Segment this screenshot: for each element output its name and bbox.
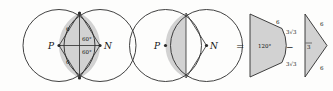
chord-and-spokes-2 bbox=[186, 13, 207, 78]
label-radius-top: 6 bbox=[66, 26, 70, 32]
vertex-n-dot bbox=[98, 44, 101, 47]
rhombus-spokes bbox=[59, 13, 100, 78]
triangle-side-top-label: 6 bbox=[320, 21, 324, 27]
label-angle-top: 60° bbox=[82, 36, 92, 42]
vertex-bottom-dot bbox=[78, 76, 81, 79]
minus-operator: − bbox=[286, 42, 294, 52]
sector-radius-label: 6 bbox=[276, 19, 280, 25]
label-n: N bbox=[103, 41, 113, 51]
label-p-2: P bbox=[153, 41, 161, 51]
triangle-height-label: 3 bbox=[307, 44, 311, 50]
geometry-figure: P N 6 6 60° 60° P N = 120° 6 − 3√3 3√3 6 bbox=[0, 0, 333, 91]
vertex-top-dot bbox=[78, 11, 81, 14]
sector-figure: 120° 6 bbox=[250, 14, 286, 77]
diagram-2: P N bbox=[130, 10, 243, 82]
label-radius-bottom: 6 bbox=[66, 59, 70, 65]
vertex-n-dot-2 bbox=[205, 44, 208, 47]
label-angle-bottom: 60° bbox=[82, 49, 92, 55]
equals-operator: = bbox=[236, 41, 244, 52]
vertex-p-dot bbox=[57, 44, 60, 47]
label-p: P bbox=[47, 41, 55, 51]
vertex-p-dot-2 bbox=[164, 44, 167, 47]
triangle-side-bottom-label: 6 bbox=[320, 65, 324, 71]
figure-container: P N 6 6 60° 60° P N = 120° 6 − 3√3 3√3 6 bbox=[0, 0, 333, 91]
diagram-1: P N 6 6 60° 60° bbox=[23, 10, 136, 82]
label-n-2: N bbox=[209, 41, 219, 51]
triangle-base-bottom-label: 3√3 bbox=[286, 61, 297, 67]
sector-angle-label: 120° bbox=[258, 43, 271, 49]
triangle-base-top-label: 3√3 bbox=[286, 29, 297, 35]
half-lens-shaded-region bbox=[165, 13, 186, 78]
